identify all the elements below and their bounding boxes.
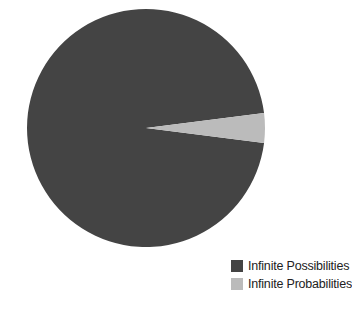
legend-item-probabilities[interactable]: Infinite Probabilities — [231, 275, 352, 293]
legend-swatch-icon — [231, 260, 243, 272]
legend-item-possibilities[interactable]: Infinite Possibilities — [231, 257, 352, 275]
legend-label: Infinite Probabilities — [248, 277, 352, 291]
legend-label: Infinite Possibilities — [248, 259, 349, 273]
legend-swatch-icon — [231, 278, 243, 290]
legend: Infinite Possibilities Infinite Probabil… — [231, 257, 352, 293]
